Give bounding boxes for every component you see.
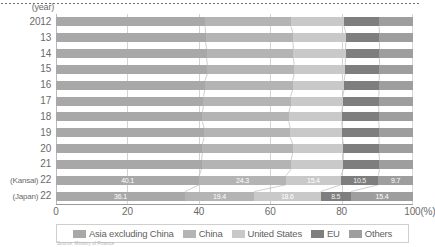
legend-label: Others [365, 228, 392, 239]
bar-row [56, 49, 413, 58]
bar-segment [379, 144, 413, 153]
bar-segment [204, 128, 290, 137]
bar-segment: 24.3 [199, 176, 286, 185]
bar-segment [56, 144, 202, 153]
y-axis-label-7: 18 [40, 112, 51, 122]
bar-row [56, 97, 413, 106]
connector-line [202, 137, 204, 144]
x-axis-tick-0: 0 [53, 206, 58, 217]
bar-segment [203, 97, 290, 106]
y-axis-label-value: 2012 [30, 16, 51, 27]
bar-segment: 19.4 [185, 192, 254, 201]
bar-segment [289, 112, 342, 121]
bar-segment [379, 160, 413, 169]
bar-segment [56, 112, 202, 121]
connector-line [342, 137, 343, 144]
bar-segment [56, 33, 206, 42]
bar-segment [379, 97, 413, 106]
bar-segment [294, 65, 345, 74]
bar-segment [291, 160, 343, 169]
legend-swatch-icon [183, 230, 196, 238]
y-axis-label-value: 14 [40, 48, 51, 59]
connector-line [202, 153, 203, 160]
legend-item[interactable]: Asia excluding China [73, 228, 174, 239]
bar-segment-label: 18.6 [254, 192, 320, 201]
y-axis-label-3: 14 [40, 49, 51, 59]
y-axis-label-1: 2012 [30, 17, 51, 27]
connector-line [341, 169, 343, 176]
y-axis-label-11: (Kansai) 22 [10, 175, 51, 186]
bar-row [56, 128, 413, 137]
bar-segment-label: 15.4 [351, 192, 413, 201]
y-axis-label-value: 13 [40, 32, 51, 43]
legend-label: Asia excluding China [89, 228, 174, 239]
bar-segment [379, 33, 413, 42]
bar-row [56, 65, 413, 74]
bar-segment [207, 65, 294, 74]
connector-line [289, 121, 290, 128]
bar-segment-label: 10.5 [341, 176, 378, 185]
x-axis-tick-40: 40 [193, 206, 204, 217]
y-axis-unit-label: (year) [0, 2, 54, 12]
x-axis-tick-20: 20 [122, 206, 133, 217]
bar-segment [344, 81, 379, 90]
y-axis-label-5: 16 [40, 80, 51, 90]
bar-segment [56, 65, 207, 74]
bar-segment [205, 17, 291, 26]
bar-segment [345, 65, 379, 74]
bar-segment [379, 81, 413, 90]
legend-item[interactable]: United States [232, 228, 302, 239]
bar-segment: 9.7 [378, 176, 413, 185]
bar-segment [56, 17, 205, 26]
connector-line [254, 185, 286, 192]
legend-item[interactable]: EU [311, 228, 340, 239]
y-axis-label-8: 19 [40, 128, 51, 138]
bar-segment [293, 81, 344, 90]
bar-segment: 15.4 [351, 192, 413, 201]
y-axis-label-value: 18 [40, 111, 51, 122]
connector-line [291, 90, 293, 97]
legend-swatch-icon [349, 230, 362, 238]
legend-label: United States [248, 228, 302, 239]
bar-segment-label: 15.4 [286, 176, 341, 185]
connector-line [321, 185, 341, 192]
bar-segment [344, 17, 379, 26]
bar-row: 40.124.315.410.59.7 [56, 176, 413, 185]
x-axis-tick-100: 100(%) [404, 206, 435, 217]
bar-row: 36.119.418.68.515.4 [56, 192, 413, 201]
legend-item[interactable]: Others [349, 228, 392, 239]
bar-segment [291, 97, 343, 106]
connector-line [378, 169, 379, 176]
y-axis-label-12: (Japan) 22 [13, 191, 51, 202]
bar-segment [343, 97, 379, 106]
connector-line [203, 90, 204, 97]
legend-swatch-icon [311, 230, 324, 238]
y-axis-label-prefix: (Japan) [13, 192, 41, 201]
bar-segment [346, 49, 380, 58]
x-axis-tick-labels: 020406080100(%) [0, 206, 421, 220]
y-axis-label-prefix: (Kansai) [10, 176, 40, 185]
bar-segment: 36.1 [56, 192, 185, 201]
bar-row [56, 17, 413, 26]
bar-row [56, 33, 413, 42]
connector-line [286, 169, 291, 176]
bar-segment [291, 17, 344, 26]
connector-line [202, 121, 204, 128]
bar-segment [56, 160, 202, 169]
bar-segment [202, 160, 292, 169]
bar-segment [293, 33, 346, 42]
legend-label: China [199, 228, 223, 239]
connector-line [290, 137, 292, 144]
bar-segment-label: 8.5 [321, 192, 351, 201]
connector-line [293, 74, 294, 81]
bar-row [56, 144, 413, 153]
connector-line [289, 106, 291, 113]
bar-segment [379, 17, 413, 26]
connector-line [344, 74, 345, 81]
bar-segment [205, 81, 293, 90]
legend-item[interactable]: China [183, 228, 223, 239]
connector-line [202, 106, 203, 113]
connector-line [342, 121, 343, 128]
y-axis-label-10: 21 [40, 159, 51, 169]
y-axis-label-9: 20 [40, 144, 51, 154]
